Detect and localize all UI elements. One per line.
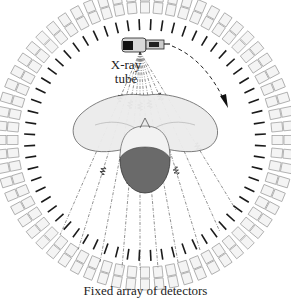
xray-tube [122,38,170,52]
xray-tube-label: X-ray tube [103,58,149,86]
detector-array-caption: Fixed array of detectors [0,283,291,299]
xray-tube-label-line2: tube [103,72,149,86]
diagram-canvas [0,0,291,302]
xray-tube-label-line1: X-ray [103,58,149,72]
ct-scanner-diagram: X-ray tube Fixed array of detectors [0,0,291,302]
